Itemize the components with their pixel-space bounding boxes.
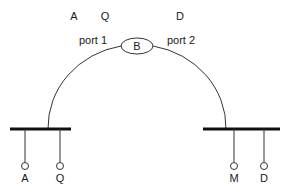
- right-tap-d-terminal[interactable]: [261, 163, 268, 170]
- left-tap-a-label: A: [21, 172, 29, 184]
- right-tap-d-label: D: [260, 172, 268, 184]
- left-bus: A Q: [10, 129, 71, 184]
- left-arc: [48, 46, 121, 129]
- node-b[interactable]: B: [121, 38, 153, 54]
- diagram-canvas: A Q D port 1 port 2 B A Q M D: [0, 0, 285, 193]
- top-label-d: D: [176, 10, 184, 22]
- right-tap-m-terminal[interactable]: [231, 163, 238, 170]
- left-tap-q-terminal[interactable]: [57, 163, 64, 170]
- node-b-label: B: [133, 40, 140, 52]
- right-arc: [153, 46, 226, 129]
- left-tap-a-terminal[interactable]: [22, 163, 29, 170]
- top-label-q: Q: [101, 10, 110, 22]
- right-bus: M D: [203, 129, 280, 184]
- left-tap-q-label: Q: [56, 172, 65, 184]
- port-2-label: port 2: [167, 34, 195, 46]
- top-label-a: A: [70, 10, 78, 22]
- port-1-label: port 1: [79, 34, 107, 46]
- right-tap-m-label: M: [229, 172, 238, 184]
